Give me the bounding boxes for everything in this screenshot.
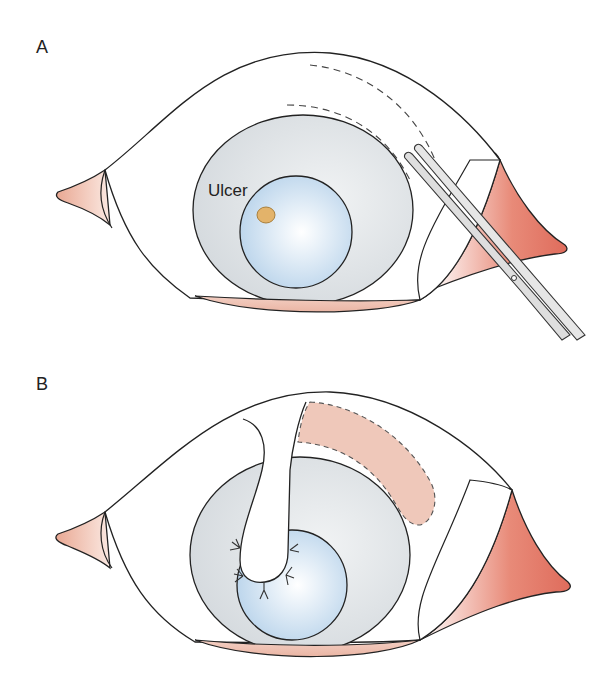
ulcer-label: Ulcer (208, 181, 248, 200)
panel-b: B (36, 374, 570, 657)
ulcer (257, 207, 275, 223)
eye-surgery-illustration: A Ulcer B (0, 0, 603, 690)
panel-a: A Ulcer (36, 37, 585, 340)
cornea (240, 176, 352, 288)
panel-label-a: A (36, 37, 48, 57)
medial-canthus (56, 170, 110, 225)
panel-label-b: B (36, 374, 48, 394)
